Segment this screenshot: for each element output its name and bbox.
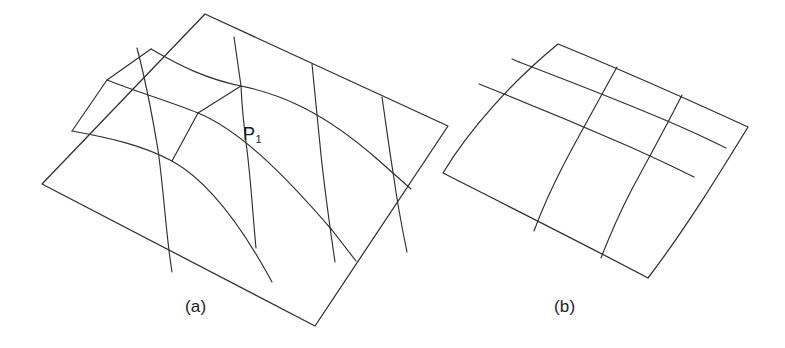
point-label-p1: P1 (243, 124, 261, 145)
figure-a-v-line-2 (241, 86, 256, 248)
figure-b-u-line-2 (479, 84, 694, 177)
figure-a-u-line-2b (332, 230, 356, 261)
figure-b-edge-connector-1 (512, 59, 519, 62)
figure-b-mesh (443, 44, 748, 278)
figure-a-irregular-seg-4 (198, 86, 241, 113)
figure-a-v-line-3 (312, 64, 335, 262)
figure-a-u-line-3 (72, 131, 272, 282)
figure-a-irregular-seg-1 (107, 49, 151, 80)
figure-a-irregular-seg-5 (172, 113, 198, 161)
figure-a-outline (42, 14, 448, 326)
figure-b-u-line-1 (519, 62, 726, 148)
figure-a-mesh (42, 14, 448, 326)
figures-canvas (0, 0, 785, 348)
figure-a-v-line-1 (137, 48, 172, 272)
caption-figure-a: (a) (185, 297, 206, 317)
point-label-p1-base: P (243, 124, 255, 144)
figure-a-u-line-1 (151, 49, 376, 158)
figure-a-irregular-seg-3 (234, 37, 241, 86)
caption-figure-b: (b) (554, 297, 575, 317)
point-label-p1-subscript: 1 (256, 133, 262, 145)
figure-b-v-line-2 (601, 95, 682, 258)
figure-a-u-line-2 (107, 80, 332, 230)
figure-b-outline (443, 44, 748, 278)
figure-b-v-line-1 (534, 67, 617, 231)
figure-a-irregular-seg-2 (72, 80, 107, 131)
